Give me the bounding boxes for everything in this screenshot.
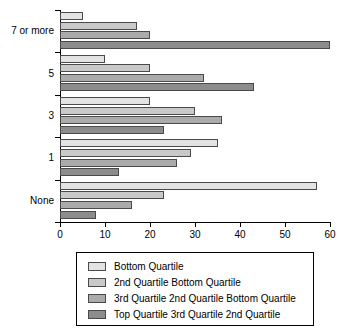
legend-swatch-icon bbox=[88, 278, 106, 287]
bar bbox=[60, 12, 83, 20]
legend-item[interactable]: Bottom Quartile bbox=[77, 258, 313, 274]
x-axis-tick-label: 10 bbox=[90, 229, 120, 240]
x-axis-tick bbox=[285, 222, 286, 227]
x-axis-tick bbox=[240, 222, 241, 227]
y-axis-tick bbox=[55, 180, 60, 181]
legend-swatch-icon bbox=[88, 294, 106, 303]
y-axis-category-label: 7 or more bbox=[11, 26, 54, 36]
bar bbox=[60, 31, 150, 39]
x-axis-tick-label: 0 bbox=[45, 229, 75, 240]
bar bbox=[60, 139, 218, 147]
legend-item-label: Top Quartile 3rd Quartile 2nd Quartile bbox=[114, 309, 280, 320]
y-axis-category-label: None bbox=[30, 196, 54, 206]
bar bbox=[60, 55, 105, 63]
x-axis-tick-label: 50 bbox=[270, 229, 300, 240]
legend-item[interactable]: Top Quartile 3rd Quartile 2nd Quartile bbox=[77, 306, 313, 322]
y-axis-tick bbox=[55, 137, 60, 138]
legend-swatch-icon bbox=[88, 310, 106, 319]
bar bbox=[60, 201, 132, 209]
bar bbox=[60, 83, 254, 91]
x-axis-tick bbox=[105, 222, 106, 227]
y-axis-category-label: 1 bbox=[48, 153, 54, 163]
bar bbox=[60, 182, 317, 190]
y-axis-tick bbox=[55, 10, 60, 11]
legend-item-label: 2nd Quartile Bottom Quartile bbox=[114, 277, 241, 288]
legend-item-label: 3rd Quartile 2nd Quartile Bottom Quartil… bbox=[114, 293, 296, 304]
x-axis-tick bbox=[150, 222, 151, 227]
legend-item[interactable]: 2nd Quartile Bottom Quartile bbox=[77, 274, 313, 290]
x-axis-tick-label: 20 bbox=[135, 229, 165, 240]
plot-area: 7 or more531None 0102030405060 bbox=[0, 0, 350, 250]
bar bbox=[60, 97, 150, 105]
bar-chart: 7 or more531None 0102030405060 Bottom Qu… bbox=[0, 0, 350, 335]
bar bbox=[60, 41, 330, 49]
x-axis-tick-label: 30 bbox=[180, 229, 210, 240]
x-axis-tick-label: 60 bbox=[315, 229, 345, 240]
legend-swatch-icon bbox=[88, 262, 106, 271]
y-axis-tick bbox=[55, 95, 60, 96]
x-axis-tick bbox=[330, 222, 331, 227]
bar bbox=[60, 126, 164, 134]
y-axis-category-label: 5 bbox=[48, 69, 54, 79]
bar bbox=[60, 191, 164, 199]
legend-item[interactable]: 3rd Quartile 2nd Quartile Bottom Quartil… bbox=[77, 290, 313, 306]
chart-legend: Bottom Quartile2nd Quartile Bottom Quart… bbox=[76, 252, 314, 326]
bar bbox=[60, 22, 137, 30]
bar bbox=[60, 107, 195, 115]
legend-item-label: Bottom Quartile bbox=[114, 261, 183, 272]
bar bbox=[60, 74, 204, 82]
bar bbox=[60, 211, 96, 219]
y-axis-category-label: 3 bbox=[48, 111, 54, 121]
bar bbox=[60, 64, 150, 72]
bar bbox=[60, 116, 222, 124]
bar bbox=[60, 149, 191, 157]
bar bbox=[60, 168, 119, 176]
bar bbox=[60, 159, 177, 167]
x-axis-tick bbox=[195, 222, 196, 227]
y-axis-tick bbox=[55, 52, 60, 53]
x-axis-tick-label: 40 bbox=[225, 229, 255, 240]
x-axis-tick bbox=[60, 222, 61, 227]
